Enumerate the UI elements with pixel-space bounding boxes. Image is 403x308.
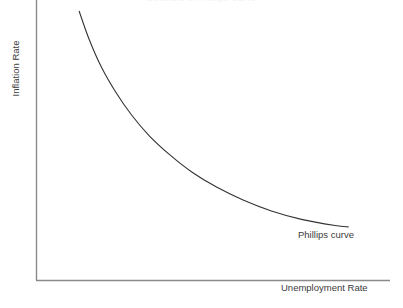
phillips-curve-annotation: Phillips curve bbox=[298, 229, 354, 240]
y-axis-label: Inflation Rate bbox=[10, 29, 21, 109]
plot-area bbox=[0, 0, 403, 308]
phillips-curve-figure: Structure of Phillips Curve Inflation Ra… bbox=[0, 0, 403, 308]
phillips-curve-path bbox=[79, 11, 348, 227]
x-axis-label: Unemployment Rate bbox=[281, 282, 368, 293]
